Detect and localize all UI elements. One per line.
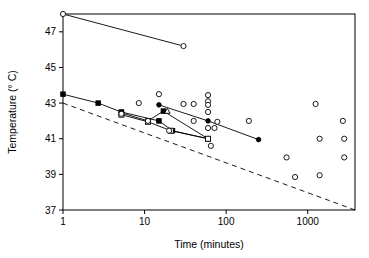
data-point-open-circle xyxy=(167,128,172,133)
data-point-open-circle xyxy=(205,109,210,114)
data-point-filled-square xyxy=(96,101,101,106)
x-tick-label: 1 xyxy=(60,216,66,227)
data-point-open-circle xyxy=(292,174,297,179)
data-point-open-circle xyxy=(191,101,196,106)
data-point-open-circle xyxy=(317,136,322,141)
y-axis-title: Temperature (° C) xyxy=(6,70,18,154)
data-point-open-circle xyxy=(313,101,318,106)
y-tick-label: 41 xyxy=(45,133,57,144)
data-point-open-circle xyxy=(156,92,161,97)
data-point-open-circle xyxy=(317,173,322,178)
data-point-open-circle xyxy=(212,125,217,130)
data-point-filled-circle xyxy=(256,137,261,142)
y-tick-label: 43 xyxy=(45,98,57,109)
data-point-open-circle xyxy=(246,118,251,123)
data-point-open-circle xyxy=(205,102,210,107)
data-point-open-circle xyxy=(119,111,124,116)
data-point-open-circle xyxy=(342,155,347,160)
data-point-filled-square xyxy=(157,119,162,124)
x-axis-title: Time (minutes) xyxy=(174,238,244,250)
data-point-open-square xyxy=(206,136,211,141)
data-point-open-circle xyxy=(181,101,186,106)
data-point-open-circle xyxy=(205,125,210,130)
y-tick-label: 45 xyxy=(45,62,57,73)
data-point-open-circle xyxy=(208,143,213,148)
y-tick-label: 37 xyxy=(45,205,57,216)
chart-figure: 373941434547 1101001000 Time (minutes) T… xyxy=(0,0,369,258)
data-point-open-circle xyxy=(340,118,345,123)
data-point-open-circle xyxy=(60,11,65,16)
data-point-filled-square xyxy=(61,92,66,97)
data-point-open-circle xyxy=(342,136,347,141)
data-point-open-circle xyxy=(205,92,210,97)
data-point-open-circle xyxy=(284,155,289,160)
x-axis-ticks: 1101001000 xyxy=(60,210,319,227)
data-point-open-circle xyxy=(215,119,220,124)
x-tick-label: 10 xyxy=(139,216,151,227)
data-point-filled-circle xyxy=(157,103,162,108)
x-tick-label: 1000 xyxy=(297,216,320,227)
data-point-open-circle xyxy=(191,118,196,123)
data-point-open-circle xyxy=(136,100,141,105)
data-point-open-circle xyxy=(145,118,150,123)
data-point-filled-circle xyxy=(206,119,211,124)
data-point-open-circle xyxy=(181,43,186,48)
y-tick-label: 47 xyxy=(45,26,57,37)
x-tick-label: 100 xyxy=(218,216,235,227)
scatter-plot: 373941434547 1101001000 Time (minutes) T… xyxy=(0,0,369,258)
y-axis-ticks: 373941434547 xyxy=(45,26,63,215)
y-tick-label: 39 xyxy=(45,169,57,180)
